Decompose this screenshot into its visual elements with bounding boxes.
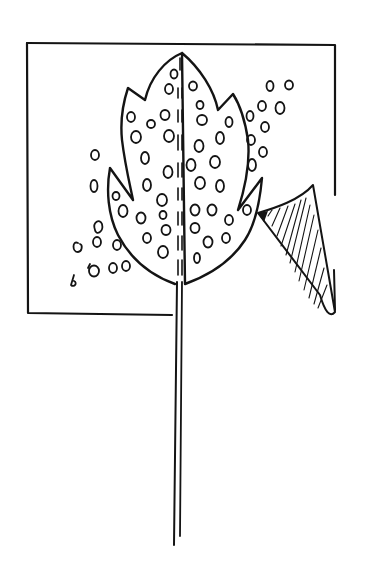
stem: [174, 282, 182, 545]
loose-spots-left: [71, 150, 130, 286]
peeling-corner: [258, 185, 335, 314]
loose-spots-right: [247, 81, 294, 172]
leaf: [108, 53, 262, 284]
square-frame: [27, 43, 335, 315]
midrib: [178, 58, 182, 275]
sketch-canvas: Hand-drawn sketch of a spotted leaf on a…: [0, 0, 365, 563]
